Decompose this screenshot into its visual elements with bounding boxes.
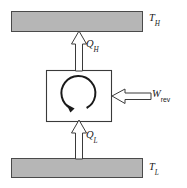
heat-in-cold-label: QL	[86, 130, 98, 141]
hot-reservoir-label: TH	[149, 13, 160, 24]
hot-reservoir-bar	[12, 12, 143, 32]
cycle-device-box	[47, 71, 112, 122]
work-input-label: Wrev	[152, 89, 170, 100]
heat-in-cold-arrow	[72, 120, 87, 159]
heat-out-hot-label: QH	[86, 39, 99, 50]
cold-reservoir-bar	[12, 159, 143, 178]
thermodynamic-cycle-diagram: TH TL QH QL Wrev	[0, 0, 187, 188]
heat-out-hot-arrow	[72, 31, 87, 71]
work-input-arrow	[112, 89, 151, 104]
cold-reservoir-label: TL	[149, 162, 159, 173]
